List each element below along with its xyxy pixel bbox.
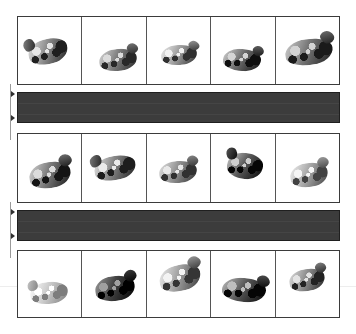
thumb-detail [57,152,73,168]
thumb-detail [185,153,200,167]
hand-photo [93,273,136,303]
thumb-detail [186,38,200,51]
image-cell[interactable] [147,251,211,317]
thumb-detail [316,154,331,169]
image-cell[interactable] [18,134,82,202]
image-cell[interactable] [276,134,339,202]
dark-separator-bar [17,210,340,241]
thumb-detail [318,29,336,46]
thumb-detail [313,260,327,274]
hand-photo [289,160,330,189]
thumb-detail [25,278,40,293]
image-cell[interactable] [18,251,82,317]
measurement-arrow-icon [11,233,15,239]
hand-photo [29,280,69,306]
bar-sheen-line [18,114,339,115]
figure-canvas [0,0,356,334]
thumb-detail [251,44,266,59]
hand-photo [222,47,261,72]
hand-photo [221,277,267,305]
hand-photo [98,47,138,73]
thumb-detail [187,255,203,271]
image-cell[interactable] [211,134,275,202]
thumb-detail [224,145,239,160]
hand-photo [287,266,326,294]
thumb-detail [122,267,138,283]
image-cell[interactable] [211,17,275,84]
measurement-arrow-icon [11,209,15,215]
image-strip-3 [17,250,340,318]
image-cell[interactable] [147,17,211,84]
hand-photo [284,35,335,67]
hand-photo [27,158,73,191]
image-cell[interactable] [276,17,339,84]
hand-photo [92,151,138,183]
dark-separator-bar [17,92,340,123]
thumb-detail [21,37,38,54]
image-cell[interactable] [82,251,146,317]
image-cell[interactable] [211,251,275,317]
hand-photo [157,260,204,295]
hand-photo [226,151,265,181]
bar-sheen-line [18,232,339,233]
bar-sheen-line [18,103,339,104]
thumb-detail [87,153,104,170]
hand-photo [160,44,197,66]
image-strip-1 [17,16,340,85]
measurement-arrow-icon [11,115,15,121]
image-strip-2 [17,133,340,203]
hand-photo [158,159,198,184]
thumb-detail [254,273,271,290]
image-cell[interactable] [276,251,339,317]
bar-sheen-line [18,221,339,222]
image-cell[interactable] [147,134,211,202]
measurement-arrow-icon [11,91,15,97]
thumb-detail [125,41,140,55]
image-cell[interactable] [82,17,146,84]
image-cell[interactable] [18,17,82,84]
hand-photo [25,35,70,69]
image-cell[interactable] [82,134,146,202]
